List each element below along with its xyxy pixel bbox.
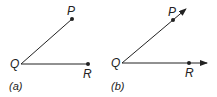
caption-b: (b) [111, 80, 125, 92]
point-r-dot [86, 62, 90, 66]
label-p: P [67, 4, 75, 18]
figure-b: Q P R (b) [111, 5, 207, 92]
label-q: Q [10, 57, 19, 71]
label-p: P [168, 5, 176, 19]
caption-a: (a) [9, 80, 23, 92]
figure-a: Q P R (a) [9, 4, 92, 92]
label-q: Q [111, 56, 120, 70]
ray-qp [122, 9, 186, 63]
label-r: R [83, 67, 92, 81]
segment-qp [21, 19, 72, 64]
point-r-dot [187, 61, 191, 65]
angle-diagram: Q P R (a) Q P R (b) [0, 0, 217, 97]
label-r: R [185, 66, 194, 80]
